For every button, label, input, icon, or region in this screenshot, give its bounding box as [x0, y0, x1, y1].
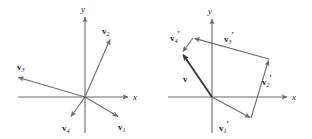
vector-v1-prime	[212, 97, 250, 118]
svg-text:v4′: v4′	[170, 29, 180, 45]
svg-text:v2′: v2′	[262, 73, 272, 89]
vector-v1-prime-mark: ′	[227, 119, 230, 129]
left-panel-axes	[18, 17, 128, 133]
vector-v-resultant	[183, 55, 212, 97]
vector-v-resultant-label-text: v	[183, 74, 188, 84]
svg-text:v3′: v3′	[224, 30, 234, 46]
vector-v3	[19, 78, 86, 98]
vector-v4	[71, 97, 85, 117]
left-x-axis-label: x	[132, 92, 137, 102]
vector-v1-prime-label: v1′	[219, 119, 229, 135]
right-x-axis-label: x	[291, 92, 296, 102]
svg-text:v2: v2	[102, 26, 110, 37]
vector-v4-label-sub: 4	[67, 127, 70, 134]
vector-v2-prime-label: v2′	[262, 73, 272, 89]
vector-v4-prime-mark: ′	[178, 29, 181, 39]
vector-v3-prime-mark: ′	[232, 30, 235, 40]
vector-v1-label-sub: 1	[123, 126, 126, 133]
svg-text:v3: v3	[17, 62, 25, 73]
vector-v4-prime	[183, 38, 193, 52]
vector-v3-prime	[195, 38, 270, 59]
vector-diagram-figure: x y v1 v2 v3	[0, 0, 312, 139]
vector-v1	[85, 97, 118, 117]
right-y-axis-label: y	[207, 6, 212, 16]
right-panel: x y v1′ v2′ v3′	[168, 6, 296, 134]
vector-v2-prime-mark: ′	[270, 73, 273, 83]
vector-v1-label: v1	[118, 122, 126, 133]
vector-diagram-canvas: x y v1 v2 v3	[0, 0, 312, 139]
vector-v3-label-sub: 3	[21, 66, 25, 73]
vector-v3-prime-label: v3′	[224, 30, 234, 46]
vector-v2-prime	[251, 61, 269, 119]
vector-v4-prime-label: v4′	[170, 29, 180, 45]
vector-v2-label: v2	[102, 26, 110, 37]
svg-text:v4: v4	[62, 123, 70, 134]
vector-v4-label: v4	[62, 123, 70, 134]
svg-text:v1: v1	[118, 122, 126, 133]
vector-v2	[85, 40, 110, 98]
right-panel-vectors	[183, 38, 269, 118]
vector-v2-label-sub: 2	[107, 30, 110, 37]
vector-v-resultant-label: v	[183, 74, 188, 84]
left-y-axis-label: y	[80, 4, 85, 14]
left-panel-vectors	[19, 40, 119, 117]
vector-v3-label: v3	[17, 62, 25, 73]
svg-text:v1′: v1′	[219, 119, 229, 135]
left-panel: x y v1 v2 v3	[17, 4, 137, 134]
